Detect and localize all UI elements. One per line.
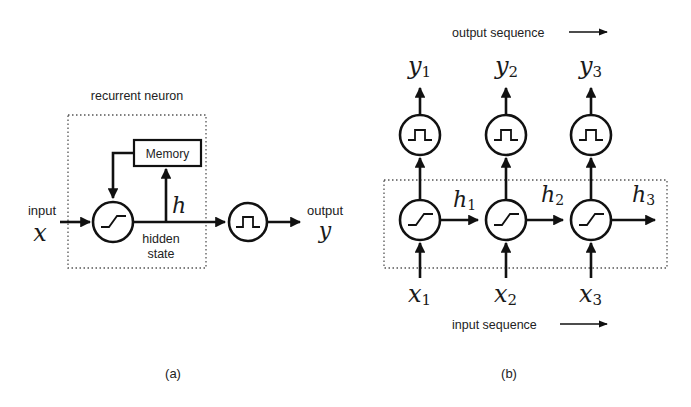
output-label: output	[307, 203, 344, 218]
x1-label: x1	[408, 280, 431, 309]
output-var: y	[318, 218, 332, 243]
hidden-label-line1: hidden	[142, 232, 180, 246]
recurrent-neuron-boundary	[68, 115, 206, 268]
feedback-arrow	[113, 153, 134, 198]
y2-label: y2	[494, 52, 518, 81]
memory-label: Memory	[146, 147, 189, 161]
output-activation-node	[229, 203, 267, 241]
y1-label: y1	[407, 52, 431, 81]
input-var: x	[33, 219, 47, 247]
x3-label: x3	[579, 280, 602, 309]
h1-label: h1	[453, 187, 476, 213]
x2-label: x2	[494, 280, 517, 309]
recurrent-neuron-label: recurrent neuron	[91, 89, 183, 103]
time-step-1: y1 x1 h1	[400, 52, 478, 309]
h3-label: h3	[632, 182, 655, 208]
input-label: input	[28, 203, 57, 218]
panel-b-caption: (b)	[501, 366, 517, 381]
panel-a-caption: (a)	[165, 366, 181, 381]
h2-label: h2	[541, 182, 564, 208]
panel-b: output sequence y1 x1 h1 y2	[384, 26, 667, 381]
output-node-1	[400, 115, 440, 155]
panel-a: recurrent neuron Memory input x h hidden…	[28, 89, 344, 381]
output-sequence-label: output sequence	[452, 26, 544, 40]
rnn-diagram: recurrent neuron Memory input x h hidden…	[0, 0, 691, 407]
output-node-2	[486, 115, 526, 155]
output-node-3	[571, 115, 611, 155]
hidden-label-line2: state	[147, 247, 174, 261]
y3-label: y3	[578, 52, 602, 81]
input-sequence-label: input sequence	[452, 318, 537, 332]
hidden-var: h	[172, 193, 186, 218]
